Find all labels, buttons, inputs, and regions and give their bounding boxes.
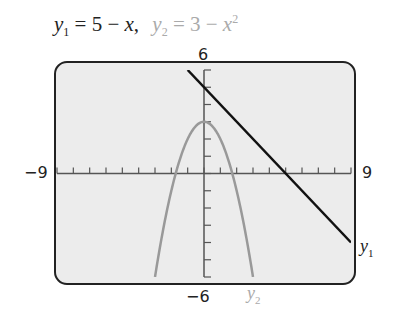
- curve-label-y1: y1: [360, 236, 374, 259]
- ymax-label: 6: [198, 45, 208, 64]
- curve-label-y2: y2: [247, 283, 261, 306]
- xmax-label: 9: [362, 163, 372, 182]
- xmin-label: −9: [24, 163, 48, 182]
- ymin-label: −6: [186, 287, 210, 306]
